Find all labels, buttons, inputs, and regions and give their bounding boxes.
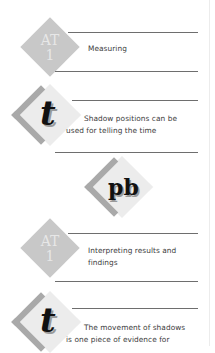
- at-badge-number: 1: [20, 48, 80, 62]
- divider-rule: [55, 152, 198, 153]
- divider-rule: [72, 100, 198, 101]
- teaching-t-icon: t: [40, 96, 56, 130]
- pupil-book-pb-icon: pb: [108, 176, 139, 198]
- divider-rule: [68, 233, 198, 234]
- at-badge-label: AT: [20, 33, 80, 47]
- at-badge-number: 1: [20, 249, 80, 263]
- divider-rule: [68, 32, 198, 33]
- page-edge-border: [209, 0, 210, 346]
- teaching-t-icon: t: [40, 303, 56, 337]
- teaching-text-line-1: Shadow positions can be: [84, 113, 177, 125]
- teaching-text-line-2: is one piece of evidence for: [66, 334, 170, 346]
- at-description-line-1: Interpreting results and: [88, 245, 176, 257]
- teaching-text-line-1: The movement of shadows: [84, 322, 185, 334]
- at-description-line-2: findings: [88, 257, 118, 269]
- divider-rule: [55, 71, 198, 72]
- at-description: Measuring: [88, 43, 127, 55]
- teaching-text-line-2: used for telling the time: [66, 125, 156, 137]
- divider-rule: [55, 281, 198, 282]
- divider-rule: [72, 308, 198, 309]
- at-badge-label: AT: [20, 234, 80, 248]
